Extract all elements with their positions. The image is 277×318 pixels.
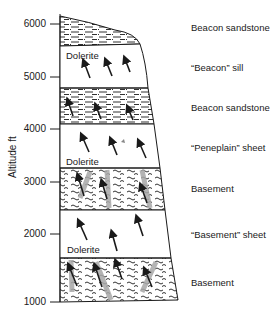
axis-unit-label: Altitude ft bbox=[7, 136, 18, 178]
layer-beacon-sandstone-top bbox=[60, 16, 140, 46]
tick-label-3000: 3000 bbox=[0, 177, 46, 187]
layer-label-beacon-sandstone-top: Beacon sandstone bbox=[191, 23, 270, 33]
layer-basement-bottom bbox=[60, 258, 178, 302]
tick-label-6000: 6000 bbox=[0, 19, 46, 29]
tick-label-4000: 4000 bbox=[0, 124, 46, 134]
altitude-axis bbox=[50, 14, 60, 302]
stratigraphic-column bbox=[0, 0, 277, 318]
layer-label-beacon-sandstone-mid: Beacon sandstone bbox=[191, 103, 270, 113]
layer-label-peneplain-sheet: “Peneplain” sheet bbox=[191, 143, 265, 153]
layer-label-basement-sheet: “Basement” sheet bbox=[191, 230, 266, 240]
rock-label-dolerite-1: Dolerite bbox=[66, 51, 99, 61]
tick-label-2000: 2000 bbox=[0, 229, 46, 239]
rock-label-dolerite-3: Dolerite bbox=[67, 245, 100, 255]
layer-label-beacon-sill: “Beacon” sill bbox=[191, 63, 243, 73]
layer-label-basement-bottom: Basement bbox=[191, 278, 234, 288]
layer-label-basement-mid: Basement bbox=[191, 184, 234, 194]
layer-beacon-sandstone-mid bbox=[60, 88, 154, 124]
rock-label-dolerite-2: Dolerite bbox=[66, 157, 99, 167]
tick-label-1000: 1000 bbox=[0, 297, 46, 307]
tick-label-5000: 5000 bbox=[0, 72, 46, 82]
